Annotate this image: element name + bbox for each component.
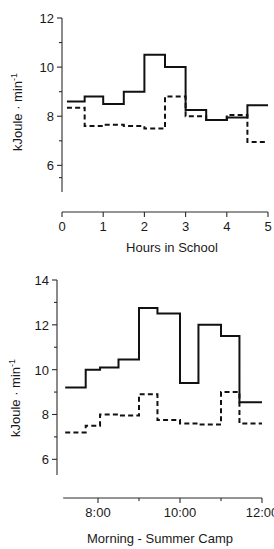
series-dashed-line <box>65 392 262 432</box>
y-tick-label: 12 <box>40 11 54 26</box>
y-axis-title-text: kJoule · min <box>8 367 23 437</box>
y-axis-tick-labels: 68101214 <box>35 273 49 467</box>
y-tick-label: 14 <box>35 273 49 288</box>
x-axis-ticks <box>98 498 262 503</box>
y-tick-label: 6 <box>47 158 54 173</box>
svg-text:kJoule · min-1: kJoule · min-1 <box>7 359 23 437</box>
y-axis-ticks <box>57 18 62 178</box>
x-tick-label: 0 <box>58 219 65 234</box>
series-solid-line <box>67 55 268 120</box>
chart-panel-school: 681012 012345 kJoule · min-1 Hours in Sc… <box>0 0 274 258</box>
x-axis-tick-labels: 012345 <box>58 219 271 234</box>
y-axis-title-text: kJoule · min <box>10 81 25 151</box>
x-axis-title: Morning - Summer Camp <box>87 531 233 546</box>
y-tick-label: 10 <box>35 363 49 378</box>
series-solid-line <box>65 308 262 402</box>
x-tick-label: 5 <box>264 219 271 234</box>
x-axis-ticks <box>62 212 268 217</box>
y-tick-label: 8 <box>42 407 49 422</box>
y-axis-tick-labels: 681012 <box>40 11 54 173</box>
x-tick-label: 2 <box>141 219 148 234</box>
x-tick-label: 10:00 <box>164 505 197 520</box>
y-tick-label: 12 <box>35 318 49 333</box>
chart-svg-summer-camp: 68101214 8:0010:0012:00 kJoule · min-1 M… <box>0 258 274 549</box>
series-dashed-line <box>67 97 268 142</box>
y-axis-title: kJoule · min-1 <box>7 359 23 437</box>
x-tick-label: 12:00 <box>246 505 274 520</box>
y-tick-label: 10 <box>40 60 54 75</box>
x-tick-label: 1 <box>100 219 107 234</box>
y-tick-label: 8 <box>47 109 54 124</box>
x-axis-title: Hours in School <box>126 240 218 255</box>
y-axis-title-exponent: -1 <box>9 73 19 81</box>
y-axis-title-exponent: -1 <box>7 359 17 367</box>
y-axis-title: kJoule · min-1 <box>9 73 25 151</box>
chart-panel-summer-camp: 68101214 8:0010:0012:00 kJoule · min-1 M… <box>0 258 274 549</box>
y-axis-ticks <box>52 280 57 459</box>
y-tick-label: 6 <box>42 452 49 467</box>
x-axis-tick-labels: 8:0010:0012:00 <box>85 505 274 520</box>
x-tick-label: 4 <box>223 219 230 234</box>
svg-text:kJoule · min-1: kJoule · min-1 <box>9 73 25 151</box>
x-tick-label: 3 <box>182 219 189 234</box>
figure-container: 681012 012345 kJoule · min-1 Hours in Sc… <box>0 0 274 549</box>
x-tick-label: 8:00 <box>85 505 110 520</box>
chart-svg-school: 681012 012345 kJoule · min-1 Hours in Sc… <box>0 0 274 258</box>
